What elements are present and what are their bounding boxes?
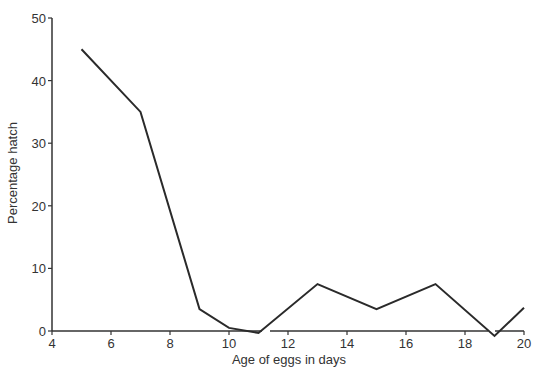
- x-tick-label: 4: [48, 336, 55, 351]
- y-tick-label: 10: [32, 261, 46, 276]
- x-tick-label: 14: [340, 336, 354, 351]
- y-tick-label: 0: [39, 324, 46, 339]
- y-tick-label: 30: [32, 136, 46, 151]
- x-tick-label: 16: [399, 336, 413, 351]
- y-tick-label: 40: [32, 74, 46, 89]
- x-tick-label: 10: [222, 336, 236, 351]
- x-tick-label: 20: [517, 336, 531, 351]
- series-line: [82, 49, 525, 336]
- line-chart: 01020304050 468101214161820 Percentage h…: [0, 0, 541, 376]
- data-series: [82, 49, 525, 336]
- x-tick-label: 8: [166, 336, 173, 351]
- x-tick-label: 6: [107, 336, 114, 351]
- y-tick-label: 20: [32, 199, 46, 214]
- x-axis: 468101214161820: [48, 331, 531, 351]
- y-tick-label: 50: [32, 11, 46, 26]
- x-tick-label: 18: [458, 336, 472, 351]
- y-axis: 01020304050: [32, 11, 52, 339]
- y-axis-title: Percentage hatch: [5, 122, 20, 224]
- x-tick-label: 12: [281, 336, 295, 351]
- x-axis-title: Age of eggs in days: [232, 352, 347, 367]
